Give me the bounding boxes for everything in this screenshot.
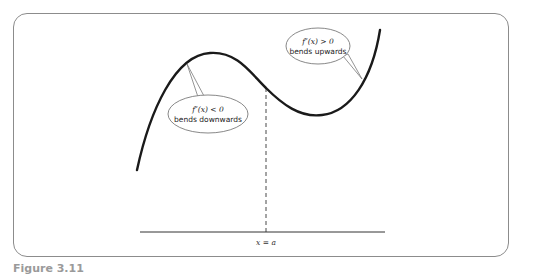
figure-caption: Figure 3.11 [13,262,84,275]
inflection-label: x = a [256,238,276,247]
concave-up-description: bends upwards [289,47,346,56]
callout-pointer-concave-up [343,54,362,79]
concave-down-description: bends downwards [174,115,242,124]
callout-concave-down [168,95,248,133]
callout-concave-up [286,28,350,64]
concave-down-condition: f″(x) < 0 [191,105,224,114]
concave-up-condition: f″(x) > 0 [301,37,334,46]
callout-pointer-concave-down [187,64,204,97]
